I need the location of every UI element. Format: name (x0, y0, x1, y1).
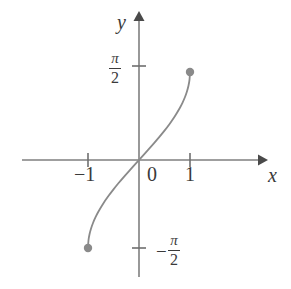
fraction-sign: − (156, 242, 167, 261)
y-axis-label: y (117, 12, 126, 32)
x-axis-label: x (268, 165, 277, 185)
endpoint-dot-upper-right (186, 68, 194, 76)
fraction-denominator: 2 (168, 252, 180, 269)
x-tick-label-minus-one: −1 (74, 164, 95, 184)
fraction-numerator: π (168, 233, 180, 249)
endpoint-dot-lower-left (84, 244, 92, 252)
fraction-stack: π 2 (168, 233, 180, 269)
fraction-stack: π 2 (109, 51, 121, 87)
graph-figure: y x 0 1 −1 π 2 − π 2 (0, 0, 291, 289)
origin-label: 0 (147, 164, 157, 184)
y-tick-label-negative-pi-over-two: − π 2 (168, 233, 180, 269)
x-tick-label-one: 1 (185, 164, 195, 184)
fraction-numerator: π (109, 51, 121, 67)
fraction-denominator: 2 (109, 70, 121, 87)
y-tick-label-pi-over-two: π 2 (109, 51, 121, 87)
plot-canvas (0, 0, 291, 289)
y-axis-arrowhead (134, 11, 145, 21)
x-axis-arrowhead (258, 155, 268, 166)
